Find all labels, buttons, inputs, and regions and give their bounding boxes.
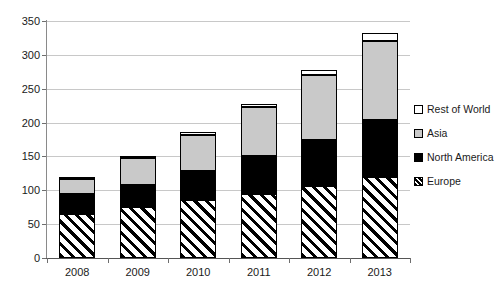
bar-segment-asia [242, 107, 276, 156]
legend-label: North America [427, 152, 494, 163]
x-tick-label: 2011 [229, 266, 289, 278]
bar-segment-rest-of-world [121, 156, 155, 158]
x-tick-mark [229, 258, 230, 263]
x-tick-mark [350, 258, 351, 263]
bar-segment-europe [302, 186, 336, 258]
x-tick-label: 2010 [168, 266, 228, 278]
legend-item-rest-of-world[interactable]: Rest of World [414, 104, 496, 115]
x-tick-mark [108, 258, 109, 263]
x-tick-label: 2009 [108, 266, 168, 278]
legend-label: Europe [427, 176, 461, 187]
y-tick-label: 300 [0, 50, 40, 61]
x-tick-label: 2013 [350, 266, 410, 278]
bar-segment-rest-of-world [242, 104, 276, 107]
x-tick-label: 2012 [289, 266, 349, 278]
y-tick-label: 100 [0, 185, 40, 196]
y-tick-label: 150 [0, 151, 40, 162]
bar-segment-asia [363, 41, 397, 120]
legend-item-asia[interactable]: Asia [414, 128, 496, 139]
black-square-icon [414, 153, 423, 162]
x-tick-mark [168, 258, 169, 263]
bar-segment-rest-of-world [60, 177, 94, 179]
bar-segment-north-america [363, 120, 397, 177]
legend-item-north-america[interactable]: North America [414, 152, 496, 163]
bar-segment-europe [363, 177, 397, 258]
bar-segment-europe [181, 200, 215, 258]
y-tick-label: 250 [0, 84, 40, 95]
plot-area [47, 21, 410, 258]
y-tick-label: 200 [0, 118, 40, 129]
bar-2009[interactable] [120, 156, 156, 258]
bar-segment-rest-of-world [363, 33, 397, 42]
bar-2011[interactable] [241, 104, 277, 258]
bar-2008[interactable] [59, 177, 95, 258]
bar-segment-rest-of-world [302, 70, 336, 74]
x-tick-mark [289, 258, 290, 263]
bar-2013[interactable] [362, 33, 398, 258]
legend-label: Rest of World [427, 104, 490, 115]
legend: Rest of World Asia North America Europe [414, 104, 496, 200]
x-tick-mark [47, 258, 48, 263]
bar-segment-north-america [121, 185, 155, 207]
gray-square-icon [414, 129, 423, 138]
white-square-icon [414, 105, 423, 114]
bar-segment-asia [60, 179, 94, 194]
bar-segment-europe [121, 207, 155, 258]
legend-label: Asia [427, 128, 447, 139]
bar-segment-north-america [302, 140, 336, 185]
bar-segment-asia [302, 75, 336, 141]
bar-2010[interactable] [180, 132, 216, 258]
bar-segment-north-america [60, 194, 94, 214]
bar-segment-europe [242, 194, 276, 258]
x-tick-mark [410, 258, 411, 263]
bar-segment-asia [181, 135, 215, 171]
x-tick-label: 2008 [47, 266, 107, 278]
bar-segment-asia [121, 158, 155, 185]
bar-segment-rest-of-world [181, 132, 215, 135]
hatched-square-icon [414, 177, 423, 186]
bar-2012[interactable] [301, 70, 337, 258]
bar-segment-north-america [181, 171, 215, 200]
legend-item-europe[interactable]: Europe [414, 176, 496, 187]
y-tick-label: 0 [0, 253, 40, 264]
bar-segment-north-america [242, 156, 276, 193]
bar-segment-europe [60, 214, 94, 258]
y-tick-label: 350 [0, 16, 40, 27]
stacked-bar-chart: 050100150200250300350 200820092010201120… [0, 0, 497, 295]
y-tick-label: 50 [0, 219, 40, 230]
